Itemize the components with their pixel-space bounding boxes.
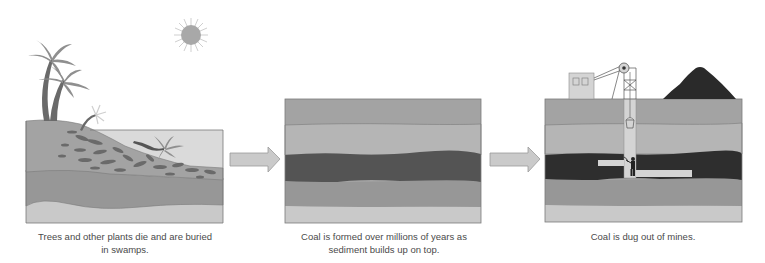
arrow-right-icon bbox=[490, 147, 540, 172]
caption-step-1-line2: in swamps. bbox=[10, 244, 240, 257]
coal-pile-icon bbox=[663, 67, 736, 99]
caption-step-2: Coal is formed over millions of years as… bbox=[270, 231, 498, 256]
caption-step-2-line1: Coal is formed over millions of years as bbox=[270, 231, 498, 244]
arrow-right-icon bbox=[230, 147, 280, 172]
caption-step-3-line1: Coal is dug out of mines. bbox=[540, 231, 746, 244]
panel-swamp bbox=[26, 18, 223, 223]
caption-step-1-line1: Trees and other plants die and are burie… bbox=[10, 231, 240, 244]
bucket-icon bbox=[626, 120, 634, 128]
coal-formation-diagram bbox=[0, 0, 765, 263]
panel-coal-forming bbox=[285, 99, 481, 223]
caption-step-1: Trees and other plants die and are burie… bbox=[10, 231, 240, 256]
panel-coal-mine bbox=[545, 63, 742, 222]
mine-tunnel-right bbox=[636, 170, 692, 177]
sun-icon bbox=[174, 18, 208, 52]
mine-tunnel-left bbox=[598, 160, 624, 166]
caption-step-3: Coal is dug out of mines. bbox=[540, 231, 746, 244]
mine-building-icon bbox=[569, 73, 594, 99]
caption-step-2-line2: sediment builds up on top. bbox=[270, 244, 498, 257]
coal-seam bbox=[285, 150, 481, 185]
